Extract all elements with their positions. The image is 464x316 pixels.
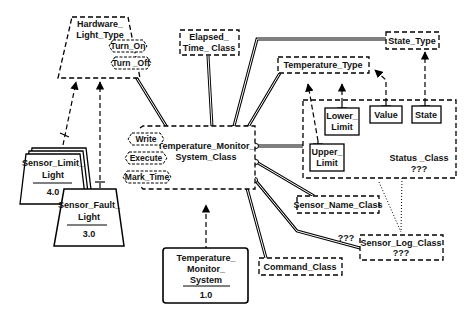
module-name-line1: Sensor_Fault_ bbox=[58, 200, 121, 210]
class-name-line1: Elapsed_ bbox=[189, 32, 230, 42]
dotted-link-status-sensorlog bbox=[401, 178, 402, 232]
operation-label: Execute bbox=[130, 153, 163, 163]
class-name-line1: Temperature_Monitor_ bbox=[158, 141, 256, 151]
operation-label: Turn_On bbox=[111, 41, 146, 51]
attribute-name-line2: Limit bbox=[316, 158, 338, 168]
class-name: Temperature_Type bbox=[283, 60, 362, 70]
operation-turn-on[interactable]: Turn_On bbox=[109, 40, 147, 52]
module-name-line2: Monitor_ bbox=[187, 264, 226, 274]
class-name-line2: ??? bbox=[393, 248, 410, 258]
module-version: 1.0 bbox=[200, 290, 213, 300]
operation-turn-off[interactable]: Turn _Off bbox=[111, 57, 151, 69]
operation-execute[interactable]: Execute bbox=[125, 152, 167, 164]
class-name: Command_Class bbox=[263, 262, 336, 272]
attribute-lower-limit[interactable]: Lower_ Limit bbox=[325, 108, 359, 135]
operation-label: Write bbox=[135, 134, 156, 144]
attribute-value[interactable]: Value bbox=[370, 106, 402, 123]
has-link-status-monitor bbox=[254, 144, 304, 149]
class-name: State_Type bbox=[388, 36, 435, 46]
attribute-name-line1: Lower_ bbox=[326, 111, 359, 121]
class-name-line1: Hardware_ bbox=[77, 19, 124, 29]
class-state-type[interactable]: State_Type bbox=[386, 32, 439, 49]
class-name: Sensor_Name_Class bbox=[293, 200, 382, 210]
module-version: 4.0 bbox=[47, 187, 60, 197]
class-name-line1: Status _Class bbox=[389, 153, 448, 163]
has-link-elapsed-monitor bbox=[208, 56, 215, 131]
attribute-upper-limit[interactable]: Upper_ Limit bbox=[310, 144, 344, 171]
cardinality-label: ??? bbox=[338, 233, 355, 243]
module-name-line2: Light bbox=[42, 170, 64, 180]
diagram-canvas: Hardware_ Light_Type Turn_On Turn _Off S… bbox=[0, 0, 464, 316]
dependency-value-temptype bbox=[375, 70, 386, 103]
operation-label: Turn _Off bbox=[112, 58, 150, 68]
attribute-name-line1: Upper_ bbox=[311, 147, 343, 157]
class-elapsed-time[interactable]: Elapsed_ Time_ Class bbox=[180, 30, 239, 55]
module-name-line1: Sensor_Limit_ bbox=[22, 158, 85, 168]
attribute-name-line2: Limit bbox=[331, 122, 353, 132]
attribute-name: State bbox=[415, 110, 437, 120]
module-version: 3.0 bbox=[83, 229, 96, 239]
operation-mark-time[interactable]: Mark_Time bbox=[123, 171, 171, 183]
module-name-line3: System bbox=[190, 275, 222, 285]
class-name-line2: ??? bbox=[411, 164, 428, 174]
module-sensor-fault-light[interactable]: Sensor_Fault_ Light 3.0 bbox=[54, 189, 124, 246]
dependency-upper-temptype bbox=[308, 84, 318, 141]
class-name-line2: Time_ Class bbox=[183, 43, 235, 53]
operation-label: Mark_Time bbox=[125, 172, 170, 182]
attribute-state[interactable]: State bbox=[412, 106, 441, 123]
class-name-line1: Sensor_Log_Class bbox=[360, 238, 441, 248]
module-name-line2: Light bbox=[78, 212, 100, 222]
class-command[interactable]: Command_Class bbox=[259, 258, 342, 275]
attribute-name: Value bbox=[374, 110, 398, 120]
class-sensor-log[interactable]: Sensor_Log_Class ??? bbox=[360, 235, 443, 260]
has-link-temptype-monitor bbox=[245, 73, 281, 131]
class-sensor-name[interactable]: Sensor_Name_Class bbox=[293, 196, 382, 213]
module-temperature-monitor-system[interactable]: Temperature_ Monitor_ System 1.0 bbox=[163, 248, 248, 303]
class-name-line2: Light_Type bbox=[76, 30, 123, 40]
module-name-line1: Temperature_ bbox=[177, 253, 237, 263]
class-temperature-type[interactable]: Temperature_Type bbox=[278, 57, 369, 73]
has-link-hardware-monitor bbox=[136, 77, 172, 133]
class-name-line2: System_Class bbox=[175, 152, 236, 162]
operation-write[interactable]: Write bbox=[128, 133, 164, 145]
